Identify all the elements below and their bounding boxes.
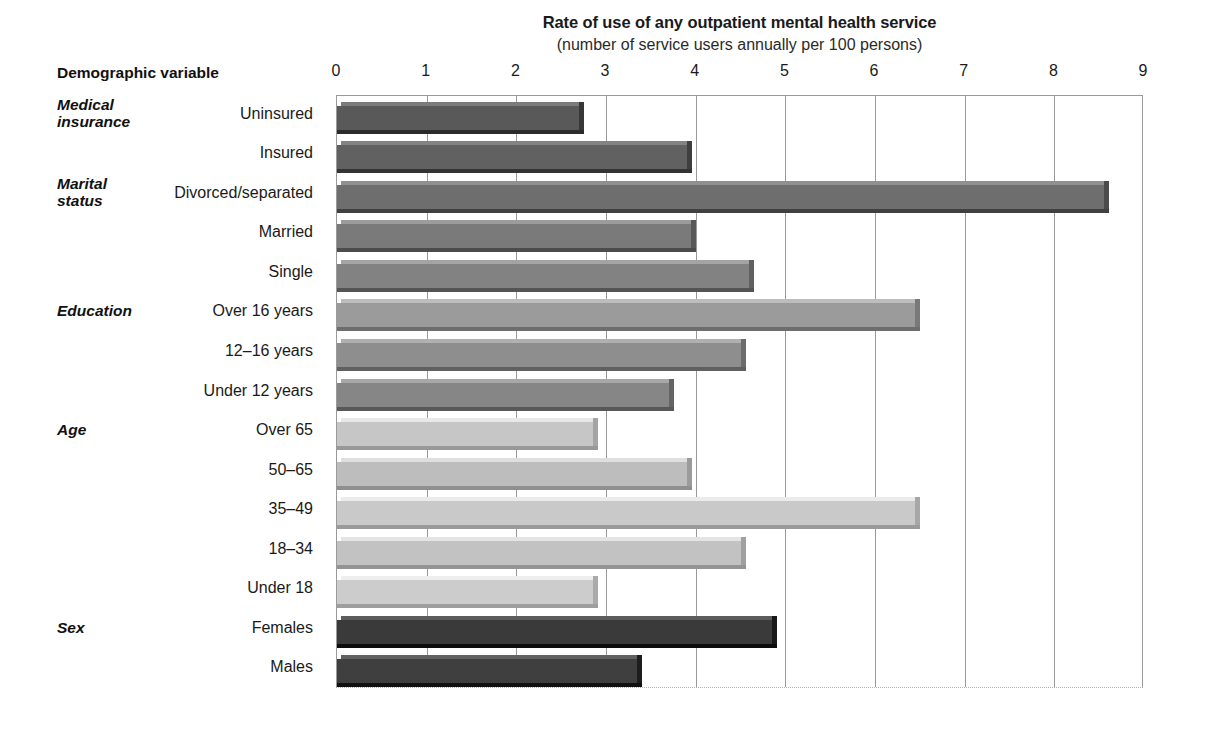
bar-18-34[interactable] [337,541,741,565]
bar-bottom-shadow [337,683,642,687]
bar-top-highlight [341,418,593,422]
bar-50-65[interactable] [337,462,687,486]
group-label-line1: Age [57,421,86,438]
group-label-line1: Marital [57,175,107,192]
bar-side-shadow [579,102,584,130]
bar-face [337,264,749,288]
bar-face [337,541,741,565]
bar-bottom-shadow [337,644,777,648]
bar-side-shadow [1104,181,1109,209]
bar-bottom-shadow [337,248,696,252]
x-tick-1: 1 [421,62,430,80]
bar-insured[interactable] [337,145,687,169]
category-label-males: Males [270,658,313,676]
bar-face [337,145,687,169]
bar-top-highlight [341,299,915,303]
bar-bottom-shadow [337,604,598,608]
bar-row [337,303,1142,327]
bar-35-49[interactable] [337,501,915,525]
group-label-line1: Medical [57,96,130,113]
bar-face [337,303,915,327]
bar-side-shadow [749,260,754,288]
bar-top-highlight [341,537,741,541]
x-tick-7: 7 [959,62,968,80]
x-tick-9: 9 [1139,62,1148,80]
x-tick-5: 5 [780,62,789,80]
category-label-females: Females [252,619,313,637]
bar-married[interactable] [337,224,691,248]
bar-under-12-years[interactable] [337,383,669,407]
bar-top-highlight [341,260,749,264]
bar-top-highlight [341,616,772,620]
bar-top-highlight [341,655,637,659]
category-label-12-16-years: 12–16 years [225,342,313,360]
bar-bottom-shadow [337,327,920,331]
category-label-over-16-years: Over 16 years [213,302,313,320]
bar-side-shadow [691,220,696,248]
group-label-line1: Sex [57,619,85,636]
bar-females[interactable] [337,620,772,644]
bar-males[interactable] [337,659,637,683]
bar-face [337,383,669,407]
bar-row [337,106,1142,130]
bar-top-highlight [341,102,579,106]
bar-face [337,343,741,367]
bar-uninsured[interactable] [337,106,579,130]
bar-side-shadow [915,497,920,525]
bar-row [337,580,1142,604]
bar-face [337,580,593,604]
group-label-education: Education [57,302,132,319]
bar-side-shadow [593,418,598,446]
bar-12-16-years[interactable] [337,343,741,367]
plot-area [336,95,1143,688]
bar-side-shadow [669,379,674,407]
x-tick-2: 2 [511,62,520,80]
category-label-under-18: Under 18 [247,579,313,597]
bar-top-highlight [341,141,687,145]
group-label-line2: insurance [57,113,130,130]
group-label-line2: status [57,192,107,209]
bar-side-shadow [637,655,642,683]
bar-bottom-shadow [337,367,746,371]
bar-side-shadow [687,458,692,486]
bar-row [337,264,1142,288]
group-label-marital: Maritalstatus [57,175,107,210]
bar-top-highlight [341,379,669,383]
demographic-variable-header: Demographic variable [57,64,219,82]
bar-row [337,383,1142,407]
x-tick-8: 8 [1049,62,1058,80]
bar-row [337,185,1142,209]
bar-row [337,620,1142,644]
bar-divorced-separated[interactable] [337,185,1104,209]
bar-over-16-years[interactable] [337,303,915,327]
bars-layer [337,96,1142,687]
category-labels: UninsuredInsuredDivorced/separatedMarrie… [0,95,325,688]
bar-bottom-shadow [337,209,1109,213]
chart-subtitle: (number of service users annually per 10… [336,35,1143,56]
bar-face [337,501,915,525]
bar-bottom-shadow [337,486,692,490]
x-tick-0: 0 [332,62,341,80]
bar-face [337,224,691,248]
bar-over-65[interactable] [337,422,593,446]
bar-bottom-shadow [337,446,598,450]
x-tick-4: 4 [690,62,699,80]
bar-top-highlight [341,576,593,580]
bar-face [337,106,579,130]
group-label-line1: Education [57,302,132,319]
x-axis-tick-labels: 0123456789 [336,62,1143,88]
bar-row [337,541,1142,565]
x-tick-6: 6 [870,62,879,80]
category-label-single: Single [269,263,313,281]
bar-bottom-shadow [337,525,920,529]
bar-face [337,422,593,446]
bar-face [337,620,772,644]
x-tick-3: 3 [601,62,610,80]
bar-bottom-shadow [337,288,754,292]
group-label-age: Age [57,421,86,438]
bar-bottom-shadow [337,407,674,411]
bar-side-shadow [593,576,598,604]
bar-side-shadow [772,616,777,644]
bar-under-18[interactable] [337,580,593,604]
bar-single[interactable] [337,264,749,288]
